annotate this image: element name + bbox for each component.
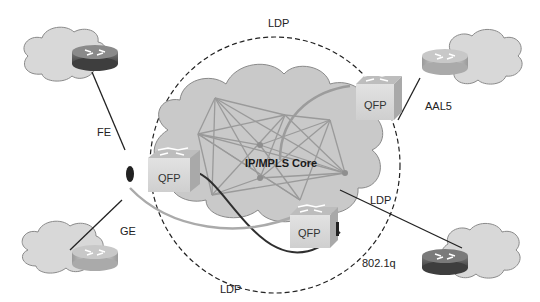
mpls-core-cloud xyxy=(154,64,383,221)
mesh-node xyxy=(342,170,348,176)
core-label: IP/MPLS Core xyxy=(245,158,317,169)
link-802-1q xyxy=(340,190,462,248)
qfp-top-right-label: QFP xyxy=(364,100,387,111)
ldp-label-top: LDP xyxy=(268,18,289,29)
qfp-bottom-label: QFP xyxy=(298,228,321,239)
link-label-802-1q: 802.1q xyxy=(362,258,396,269)
link-label-ge: GE xyxy=(120,226,136,237)
qfp-top-right-icon[interactable] xyxy=(356,74,402,120)
ldp-label-right: LDP xyxy=(370,195,391,206)
ldp-label-bottom: LDP xyxy=(220,284,241,295)
network-diagram xyxy=(0,0,540,302)
router-top-left-icon[interactable] xyxy=(72,45,118,71)
router-top-right-icon[interactable] xyxy=(422,49,468,75)
qfp-left-label: QFP xyxy=(158,173,181,184)
router-bottom-left-icon[interactable] xyxy=(72,245,118,271)
mesh-node xyxy=(257,142,263,148)
link-label-aal5: AAL5 xyxy=(425,101,452,112)
router-bottom-right-icon[interactable] xyxy=(422,249,468,275)
link-fe xyxy=(92,72,125,150)
link-label-fe: FE xyxy=(97,127,111,138)
qfp-left-icon[interactable] xyxy=(126,148,200,192)
mesh-node xyxy=(257,175,263,181)
